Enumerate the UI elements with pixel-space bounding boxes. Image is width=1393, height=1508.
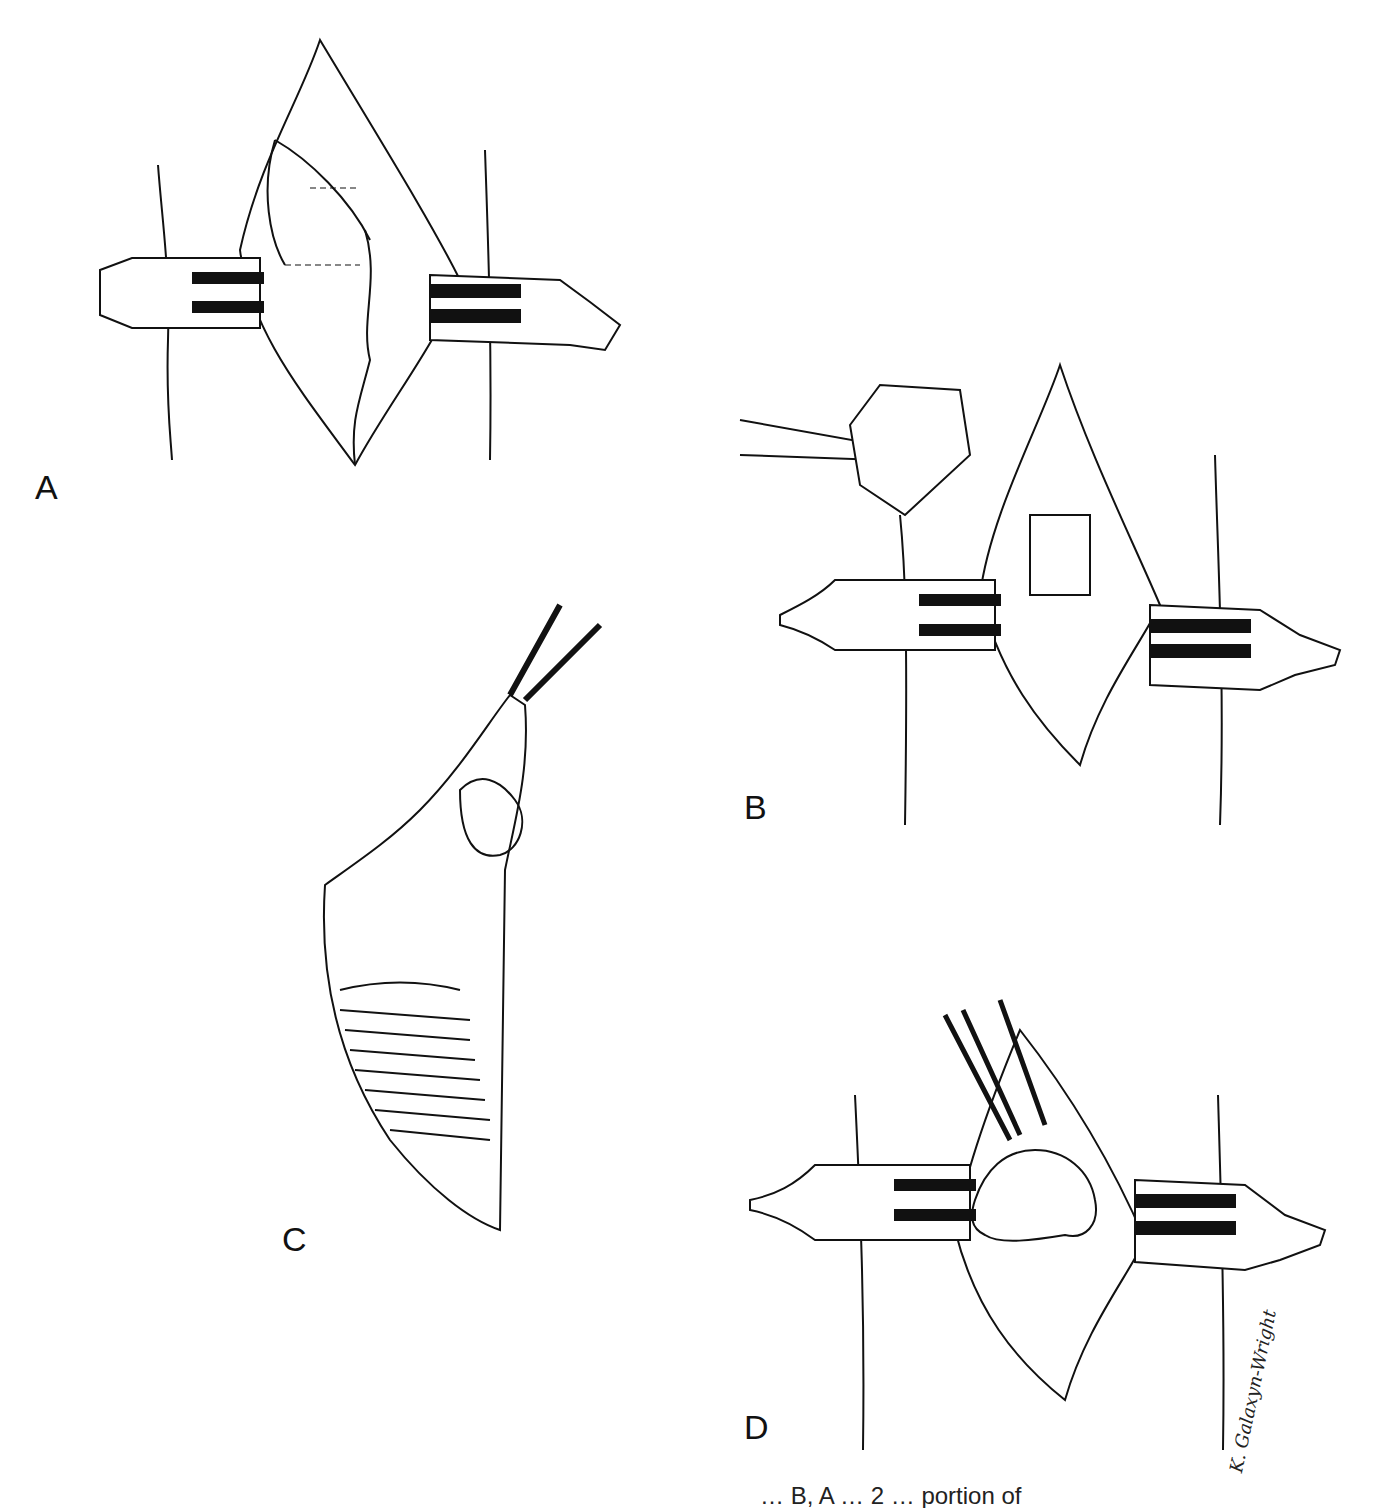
panel-c: [280, 600, 620, 1250]
surgical-illustration-a: [100, 40, 620, 470]
caption-fragment: … B, A … 2 … portion of: [760, 1482, 1393, 1508]
surgical-illustration-b: [740, 365, 1393, 825]
surgical-illustration-d: [745, 1000, 1393, 1450]
panel-a: [100, 40, 620, 470]
surgical-illustration-c: [280, 600, 620, 1250]
panel-label-d: D: [744, 1410, 769, 1444]
panel-b: [740, 365, 1393, 825]
panel-label-a: A: [35, 470, 58, 504]
figure-caption-clipped: … B, A … 2 … portion of: [760, 1478, 1393, 1508]
panel-label-c: C: [282, 1222, 307, 1256]
panel-d: [745, 1000, 1393, 1450]
panel-label-b: B: [744, 790, 767, 824]
